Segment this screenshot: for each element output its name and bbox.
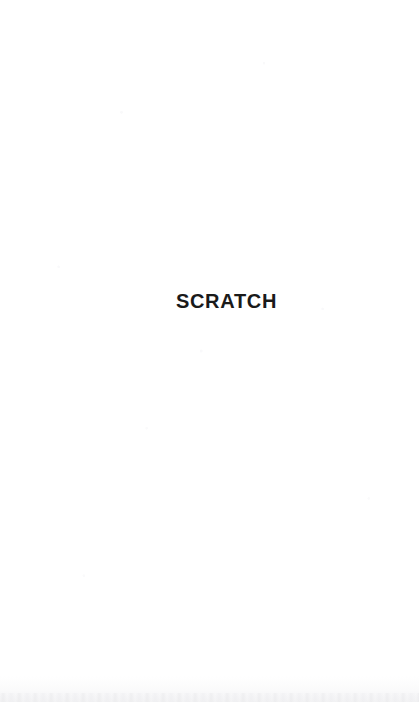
heading-container: SCRATCH <box>0 289 419 313</box>
scanned-page: SCRATCH <box>0 0 419 702</box>
page-title: SCRATCH <box>176 289 277 313</box>
scan-bottom-edge-shadow <box>0 676 419 702</box>
scan-noise-texture <box>0 0 419 702</box>
